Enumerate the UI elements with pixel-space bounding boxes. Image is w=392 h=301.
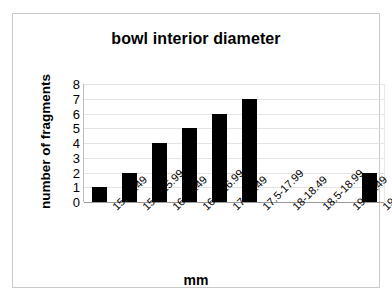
y-tick-label: 8 <box>52 78 80 91</box>
y-tick-label: 1 <box>52 181 80 194</box>
x-tick-label: 17.5-17.99 <box>260 204 268 212</box>
x-tick-label: 18-18.49 <box>290 204 298 212</box>
x-tick-label: 17-17.49 <box>230 204 238 212</box>
x-tick-label: 19-19.49 <box>350 204 358 212</box>
x-tick-label: 16-16.49 <box>170 204 178 212</box>
x-tick-label: 15.5-15.99 <box>140 204 148 212</box>
y-tick-label: 6 <box>52 107 80 120</box>
chart-frame: bowl interior diameter number of fragmen… <box>12 13 380 288</box>
x-tick-label: 18.5-18.99 <box>320 204 328 212</box>
chart-title: bowl interior diameter <box>13 30 379 48</box>
x-axis-title: mm <box>13 272 379 288</box>
y-tick-label: 5 <box>52 122 80 135</box>
x-tick-label: 19.5-20 <box>380 204 388 212</box>
y-tick-label: 4 <box>52 137 80 150</box>
x-axis-tick-labels: 15-15.4915.5-15.9916-16.4916.5-16.9917-1… <box>83 204 385 264</box>
y-axis-title: number of fragments <box>38 72 53 212</box>
y-tick-label: 3 <box>52 151 80 164</box>
y-tick-label: 7 <box>52 92 80 105</box>
x-tick-label: 15-15.49 <box>110 204 118 212</box>
y-tick-label: 2 <box>52 166 80 179</box>
y-tick-label: 0 <box>52 196 80 209</box>
x-tick-label: 16.5-16.99 <box>200 204 208 212</box>
bar <box>92 187 107 202</box>
